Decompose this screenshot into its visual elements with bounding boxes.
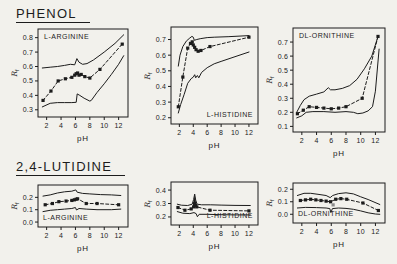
measured-points-marker: [361, 201, 364, 204]
measured-points-marker: [57, 79, 60, 82]
lower-curve-line: [42, 56, 123, 107]
measured-points-marker: [299, 199, 302, 202]
y-axis-label: Rf: [9, 191, 21, 221]
measured-points-marker: [344, 105, 347, 108]
y-axis-label-sub: f: [14, 69, 20, 71]
measured-points-marker: [337, 107, 340, 110]
measured-points-marker: [319, 199, 322, 202]
compound-label: L-HISTIDINE: [207, 111, 253, 118]
compound-label: L-ARGININE: [44, 33, 89, 40]
measured-points-marker: [80, 73, 83, 76]
upper-curve-line: [297, 38, 378, 113]
x-tick-label: 10: [100, 232, 108, 239]
x-tick-label: 6: [329, 137, 333, 144]
x-tick-label: 4: [191, 129, 195, 136]
measured-points-marker: [183, 209, 186, 212]
measured-points-marker: [83, 75, 86, 78]
y-tick-label: 0.2: [278, 186, 288, 193]
lower-curve-line: [43, 208, 121, 212]
y-tick-label: 0.2: [156, 114, 166, 121]
y-axis-label-main: R: [10, 204, 19, 210]
y-axis-label-sub: f: [147, 72, 153, 74]
y-tick-label: 0.2: [23, 194, 33, 201]
x-tick-label: 6: [73, 232, 77, 239]
measured-points-marker: [176, 206, 179, 209]
measured-points-marker: [334, 198, 337, 201]
measured-points-line: [297, 36, 378, 113]
lower-curve-line: [178, 52, 249, 113]
y-axis-label-sub: f: [14, 202, 20, 204]
measured-points-marker: [345, 198, 348, 201]
x-axis-label: pH: [319, 149, 359, 158]
chart-panel-phenol-l-arginine: 246810120.30.40.50.60.70.8 Rf pH L-ARGIN…: [0, 20, 145, 155]
measured-points-marker: [85, 202, 88, 205]
measured-points-marker: [304, 198, 307, 201]
plot-frame: [38, 29, 128, 117]
x-tick-label: 12: [115, 122, 123, 129]
chart-panel-lutidine-l-arginine: 246810120.00.10.2 Rf pH L-ARGININE: [0, 176, 145, 264]
measured-points-marker: [121, 43, 124, 46]
measured-points-marker: [377, 209, 380, 212]
measured-points-marker: [315, 106, 318, 109]
x-axis-label: pH: [319, 240, 359, 249]
measured-points-marker: [64, 199, 67, 202]
section-title-lutidine: 2,4-LUTIDINE: [16, 159, 125, 176]
y-tick-label: 0.1: [278, 123, 288, 130]
y-tick-label: 0.4: [156, 187, 166, 194]
measured-points-marker: [314, 198, 317, 201]
y-axis-label-main: R: [143, 201, 152, 207]
measured-points-marker: [41, 99, 44, 102]
y-tick-label: 0.7: [23, 49, 33, 56]
x-tick-label: 2: [300, 228, 304, 235]
x-tick-label: 2: [177, 129, 181, 136]
measured-points-marker: [325, 200, 328, 203]
measured-points-marker: [181, 75, 184, 78]
x-tick-label: 2: [177, 230, 181, 237]
y-tick-label: 0.7: [278, 39, 288, 46]
x-tick-label: 10: [357, 228, 365, 235]
y-axis-label-sub: f: [147, 200, 153, 202]
measured-points-marker: [76, 197, 79, 200]
measured-points-marker: [88, 76, 91, 79]
y-tick-label: 0.2: [156, 213, 166, 220]
x-tick-label: 10: [100, 122, 108, 129]
x-tick-label: 8: [88, 122, 92, 129]
measured-points-marker: [208, 45, 211, 48]
measured-points-marker: [186, 47, 189, 50]
compound-label: DL-ORNITHINE: [298, 210, 354, 217]
x-tick-label: 12: [245, 230, 253, 237]
x-tick-label: 6: [205, 230, 209, 237]
y-tick-label: 0.5: [156, 67, 166, 74]
measured-points-line: [45, 199, 118, 205]
x-axis-label: pH: [195, 141, 235, 150]
upper-curve-line: [177, 194, 250, 205]
y-tick-label: 0.6: [278, 53, 288, 60]
x-tick-label: 4: [315, 228, 319, 235]
measured-points-marker: [322, 107, 325, 110]
x-tick-label: 4: [59, 122, 63, 129]
x-tick-label: 4: [191, 230, 195, 237]
measured-points-marker: [57, 200, 60, 203]
y-axis-label-main: R: [143, 73, 152, 79]
measured-points-marker: [98, 68, 101, 71]
measured-points-marker: [197, 50, 200, 53]
x-axis-label: pH: [195, 242, 235, 251]
plot-frame: [293, 183, 385, 223]
y-axis-label: Rf: [9, 58, 21, 88]
x-tick-label: 8: [344, 228, 348, 235]
section-title-lutidine-text: 2,4-LUTIDINE: [16, 159, 125, 176]
y-tick-label: 0.0: [23, 219, 33, 226]
measured-points-marker: [296, 112, 299, 115]
measured-points-marker: [247, 36, 250, 39]
x-tick-label: 12: [115, 232, 123, 239]
x-tick-label: 10: [231, 129, 239, 136]
y-tick-label: 0.6: [156, 52, 166, 59]
y-tick-label: 0.2: [278, 109, 288, 116]
x-tick-label: 12: [245, 129, 253, 136]
chart-panel-lutidine-dl-ornithine: 246810120.00.10.2 Rf pH DL-ORNITHINE: [255, 174, 397, 264]
measured-points-marker: [64, 77, 67, 80]
measured-points-marker: [330, 107, 333, 110]
x-tick-label: 6: [205, 129, 209, 136]
x-tick-label: 6: [73, 122, 77, 129]
y-tick-label: 0.0: [278, 211, 288, 218]
